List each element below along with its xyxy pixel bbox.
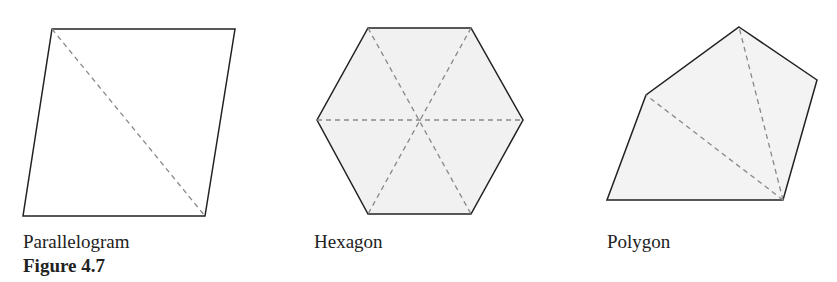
parallelogram-label: Parallelogram [23,232,130,251]
figure-caption: Figure 4.7 [23,256,105,275]
polygon-shape [607,27,817,200]
hexagon-shape [317,28,523,214]
parallelogram-shape [23,29,235,216]
polygon-label: Polygon [607,232,670,251]
hexagon-label: Hexagon [314,232,383,251]
